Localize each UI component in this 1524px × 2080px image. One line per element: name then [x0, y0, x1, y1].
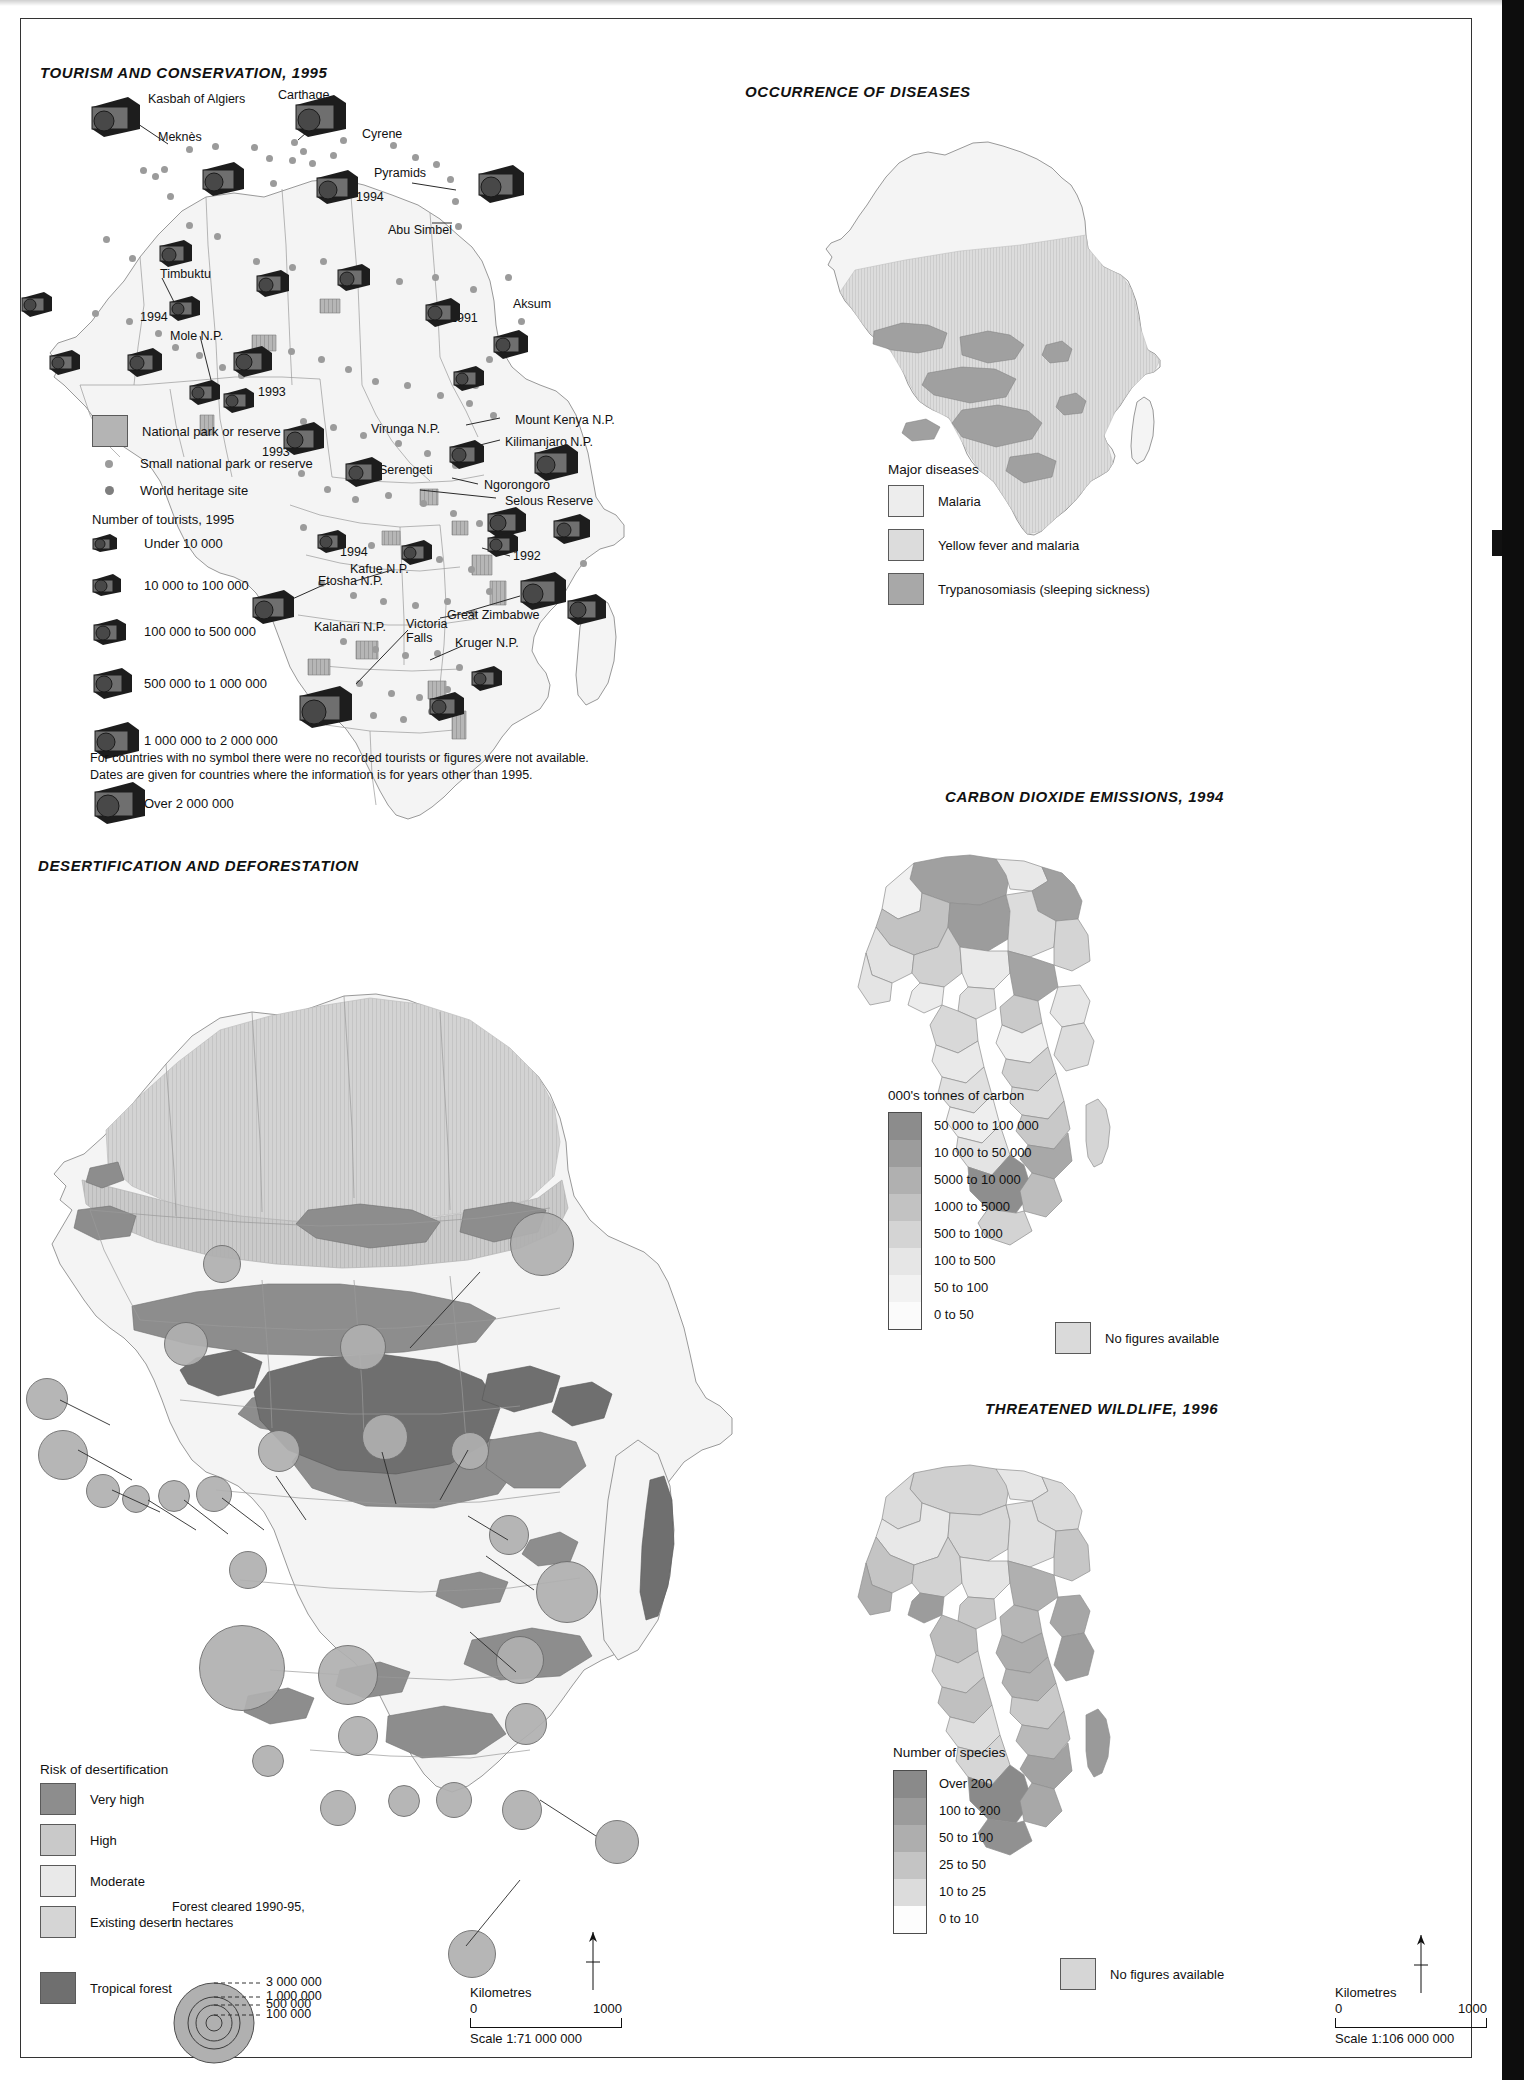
trypanosomiasis-swatch	[888, 573, 924, 605]
co2-map-title: CARBON DIOXIDE EMISSIONS, 1994	[945, 788, 1224, 805]
forest-cleared-head: Forest cleared 1990-95, in hectares	[172, 1900, 305, 1931]
camera-symbol[interactable]	[88, 95, 142, 139]
camera-symbol[interactable]	[518, 570, 568, 612]
tourism-note: For countries with no symbol there were …	[90, 750, 650, 784]
wildlife-ramp-step-0	[894, 1771, 926, 1798]
scale-ratio: Scale 1:71 000 000	[470, 2031, 622, 2046]
camera-symbol[interactable]	[158, 238, 194, 268]
camera-symbol[interactable]	[448, 438, 486, 470]
legend-label: 10 000 to 100 000	[144, 578, 249, 593]
camera-symbol[interactable]	[400, 538, 434, 566]
legend-label: 100 000 to 500 000	[144, 624, 256, 639]
camera-symbol[interactable]	[552, 512, 592, 544]
heritage-dot-icon	[92, 486, 126, 495]
camera-symbol[interactable]	[476, 163, 526, 205]
legend-row-very-high: Very high	[40, 1783, 175, 1815]
forest-cleared-head-line2: in hectares	[172, 1916, 305, 1932]
diseases-map-title: OCCURRENCE OF DISEASES	[745, 83, 971, 100]
atlas-page: TOURISM AND CONSERVATION, 1995	[0, 0, 1524, 2080]
wildlife-ramp	[893, 1770, 927, 1934]
legend-label: No figures available	[1110, 1967, 1224, 1982]
scale-km-label: Kilometres	[1335, 1985, 1487, 2000]
legend-label: 10 000 to 50 000	[934, 1139, 1039, 1166]
co2-ramp-step-4	[889, 1221, 921, 1248]
camera-symbol[interactable]	[492, 328, 530, 360]
camera-symbol[interactable]	[424, 296, 462, 328]
legend-label: Malaria	[938, 494, 981, 509]
wildlife-legend: Number of species	[893, 1745, 1006, 1766]
camera-symbol[interactable]	[222, 386, 256, 414]
camera-symbol[interactable]	[48, 348, 82, 376]
legend-label: High	[90, 1833, 117, 1848]
scale-max: 1000	[593, 2001, 622, 2016]
legend-row-tropical-forest: Tropical forest	[40, 1972, 175, 2004]
camera-symbol[interactable]	[292, 93, 348, 139]
legend-label: Yellow fever and malaria	[938, 538, 1079, 553]
camera-symbol[interactable]	[336, 262, 372, 292]
legend-row-tourists-5: Over 2 000 000	[92, 780, 392, 826]
tourists-legend-head: Number of tourists, 1995	[92, 512, 392, 527]
camera-symbol[interactable]	[168, 294, 202, 322]
wildlife-no-figures-swatch	[1060, 1958, 1096, 1990]
legend-label: 5000 to 10 000	[934, 1166, 1039, 1193]
wildlife-no-figures-row: No figures available	[1060, 1958, 1224, 1990]
wildlife-ramp-step-1	[894, 1798, 926, 1825]
desertification-legend: Risk of desertification Very high High M…	[40, 1762, 175, 2013]
camera-symbol[interactable]	[314, 168, 360, 206]
legend-label: 50 to 100	[939, 1824, 1000, 1851]
place-label: Kasbah of Algiers	[148, 92, 245, 106]
legend-label: Over 200	[939, 1770, 1000, 1797]
camera-symbol[interactable]	[452, 364, 486, 392]
scale-zero: 0	[1335, 2001, 1342, 2016]
camera-symbol[interactable]	[188, 378, 222, 406]
camera-symbol[interactable]	[255, 268, 291, 298]
wildlife-ramp-step-2	[894, 1825, 926, 1852]
desertification-legend-head: Risk of desertification	[40, 1762, 175, 1777]
place-label: Abu Simbel	[388, 223, 452, 237]
diseases-legend-head: Major diseases	[888, 462, 1150, 477]
camera-icon	[92, 666, 138, 700]
moderate-swatch	[40, 1865, 76, 1897]
place-label: Cyrene	[362, 127, 402, 141]
legend-row-heritage: World heritage site	[92, 483, 392, 498]
camera-icon	[92, 780, 138, 826]
legend-row-malaria: Malaria	[888, 485, 1150, 517]
camera-symbol[interactable]	[428, 690, 466, 722]
camera-symbol[interactable]	[20, 290, 54, 318]
camera-symbol[interactable]	[126, 346, 164, 378]
legend-label: 50 to 100	[934, 1274, 1039, 1301]
scale-bar	[470, 2018, 622, 2028]
co2-no-figures-swatch	[1055, 1322, 1091, 1354]
tourism-note-line1: For countries with no symbol there were …	[90, 750, 650, 767]
legend-row-moderate: Moderate	[40, 1865, 175, 1897]
co2-ramp-step-6	[889, 1275, 921, 1302]
tourism-note-line2: Dates are given for countries where the …	[90, 767, 650, 784]
camera-symbol[interactable]	[566, 592, 608, 626]
park-swatch	[92, 415, 128, 447]
camera-symbol[interactable]	[486, 530, 520, 558]
legend-row-yellowfever: Yellow fever and malaria	[888, 529, 1150, 561]
legend-row-trypanosomiasis: Trypanosomiasis (sleeping sickness)	[888, 573, 1150, 605]
place-label: Aksum	[513, 297, 551, 311]
forest-cleared-value: 3 000 000	[266, 1975, 322, 1989]
page-gutter	[1502, 0, 1524, 2080]
scale-km-label: Kilometres	[470, 1985, 622, 2000]
legend-label: 1 000 000 to 2 000 000	[144, 733, 278, 748]
legend-label: Under 10 000	[144, 536, 223, 551]
co2-ramp-step-0	[889, 1113, 921, 1140]
co2-ramp	[888, 1112, 922, 1330]
forest-cleared-head-line1: Forest cleared 1990-95,	[172, 1900, 305, 1916]
camera-icon	[92, 617, 138, 646]
camera-symbol[interactable]	[232, 344, 274, 378]
camera-symbol[interactable]	[200, 160, 246, 198]
place-label: Mount Kenya N.P.	[515, 413, 615, 427]
camera-symbol[interactable]	[470, 664, 504, 692]
legend-label: 100 to 200	[939, 1797, 1000, 1824]
existing-desert-swatch	[40, 1906, 76, 1938]
wildlife-ramp-labels: Over 200 100 to 200 50 to 100 25 to 50 1…	[939, 1770, 1000, 1932]
camera-symbol[interactable]	[532, 442, 580, 482]
forest-cleared-value: 100 000	[266, 2007, 311, 2021]
legend-label: 0 to 50	[934, 1301, 1039, 1328]
camera-icon	[92, 573, 138, 597]
wildlife-legend-head: Number of species	[893, 1745, 1006, 1760]
